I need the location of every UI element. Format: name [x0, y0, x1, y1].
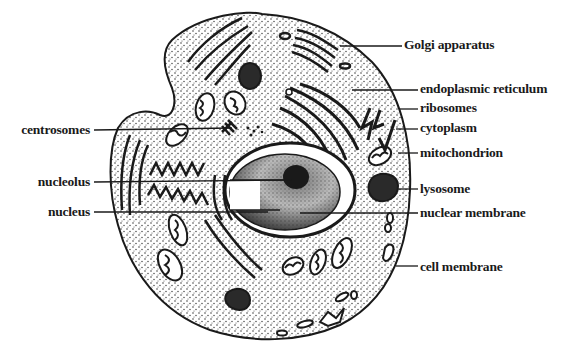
- lysosome-top: [239, 63, 261, 89]
- label-mitochondrion: mitochondrion: [420, 146, 503, 160]
- nucleus: [225, 143, 355, 237]
- label-endoplasmic-reticulum: endoplasmic reticulum: [420, 82, 547, 96]
- label-nucleolus: nucleolus: [38, 175, 90, 189]
- label-golgi-apparatus: Golgi apparatus: [404, 38, 494, 52]
- nucleolus: [283, 165, 309, 189]
- label-nucleus: nucleus: [48, 205, 90, 219]
- label-centrosomes: centrosomes: [21, 123, 90, 137]
- label-lysosome: lysosome: [420, 182, 470, 196]
- label-nuclear-membrane: nuclear membrane: [420, 206, 526, 220]
- label-cell-membrane: cell membrane: [420, 260, 503, 274]
- label-ribosomes: ribosomes: [420, 101, 477, 115]
- label-cytoplasm: cytoplasm: [420, 121, 477, 135]
